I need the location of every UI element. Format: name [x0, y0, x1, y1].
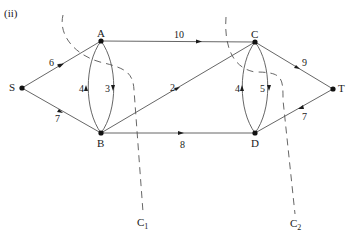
node-a [98, 38, 103, 43]
edge-label-a-c: 10 [174, 29, 184, 40]
edge-d-t [255, 89, 333, 133]
cut-c2 [226, 17, 295, 214]
edge-label-a-b: 3 [105, 83, 110, 94]
node-label-c: C [251, 29, 258, 40]
edge-label-d-c: 4 [235, 83, 240, 94]
node-label-s: S [9, 82, 15, 93]
edge-b-a [88, 41, 101, 133]
arrow-icon [240, 85, 244, 91]
cut-c1 [62, 15, 143, 212]
cut-label-c2: C2 [290, 218, 301, 233]
edge-label-b-c: 2 [170, 82, 175, 93]
node-b [98, 130, 103, 135]
node-s [19, 85, 24, 90]
edge-label-b-d: 8 [180, 139, 185, 150]
edge-label-s-a: 6 [49, 57, 54, 68]
edge-s-b [22, 88, 101, 133]
arrow-icon [196, 40, 202, 44]
arrow-icon [298, 105, 304, 109]
node-label-a: A [97, 28, 105, 39]
edge-label-d-t: 7 [302, 111, 307, 122]
edge-a-c [101, 41, 255, 42]
edge-label-s-b: 7 [55, 113, 60, 124]
node-label-b: B [97, 138, 104, 149]
edge-d-c [242, 42, 255, 133]
cut-label-c1: C1 [137, 217, 148, 232]
edge-label-b-a: 4 [79, 83, 84, 94]
node-label-t: T [338, 83, 345, 94]
arrow-icon [178, 131, 184, 135]
arrow-icon [111, 85, 115, 91]
node-c [252, 39, 257, 44]
arrow-icon [84, 85, 88, 91]
node-t [330, 86, 335, 91]
edge-label-c-d: 5 [260, 83, 265, 94]
node-d [252, 130, 257, 135]
edge-c-t [255, 42, 333, 89]
node-label-d: D [251, 138, 259, 149]
edge-label-c-t: 9 [302, 57, 307, 68]
